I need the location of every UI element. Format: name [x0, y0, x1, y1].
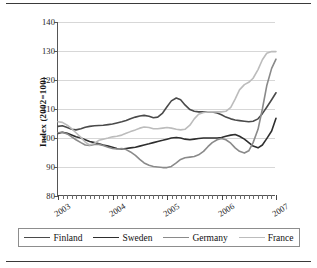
legend-label: Sweden [122, 233, 152, 243]
x-axis-minor-tick-mark [117, 195, 118, 199]
x-axis-minor-tick-mark [81, 195, 82, 199]
x-axis-minor-tick-mark [249, 195, 250, 199]
x-axis-tick-label: 2006 [216, 201, 236, 219]
x-axis-minor-tick-mark [140, 195, 141, 199]
x-axis-major-tick-mark [222, 195, 223, 200]
x-axis-minor-tick-mark [190, 195, 191, 199]
x-axis-minor-tick-mark [258, 195, 259, 199]
line-chart: Index (2002=100) 80901001101201301402003… [0, 6, 317, 218]
x-axis-minor-tick-mark [262, 195, 263, 199]
x-axis-minor-tick-mark [208, 195, 209, 199]
series-line-france [58, 52, 276, 145]
x-axis-minor-tick-mark [185, 195, 186, 199]
y-axis-tick-mark [54, 80, 58, 81]
legend-line-swatch-france [239, 237, 265, 238]
x-axis-minor-tick-mark [158, 195, 159, 199]
series-line-finland [58, 93, 276, 130]
legend-line-swatch-finland [24, 237, 50, 238]
x-axis-minor-tick-mark [72, 195, 73, 199]
x-axis-minor-tick-mark [162, 195, 163, 199]
x-axis-minor-tick-mark [63, 195, 64, 199]
x-axis-minor-tick-mark [181, 195, 182, 199]
x-axis-minor-tick-mark [85, 195, 86, 199]
x-axis-major-tick-mark [58, 195, 59, 200]
x-axis-minor-tick-mark [176, 195, 177, 199]
x-axis-minor-tick-mark [194, 195, 195, 199]
y-axis-tick-mark [54, 22, 58, 23]
legend-line-swatch-sweden [93, 237, 119, 238]
legend-label: Finland [53, 233, 82, 243]
x-axis-tick-label: 2003 [52, 201, 72, 219]
legend-label: France [268, 233, 294, 243]
legend-line-swatch-germany [163, 237, 189, 238]
legend-item-germany[interactable]: Germany [163, 233, 227, 243]
x-axis-minor-tick-mark [199, 195, 200, 199]
x-axis-tick-label: 2004 [107, 201, 127, 219]
series-line-germany [58, 59, 276, 167]
x-axis-minor-tick-mark [135, 195, 136, 199]
x-axis-minor-tick-mark [244, 195, 245, 199]
x-axis-minor-tick-mark [90, 195, 91, 199]
y-axis-tick-mark [54, 167, 58, 168]
x-axis-minor-tick-mark [235, 195, 236, 199]
x-axis-minor-tick-mark [149, 195, 150, 199]
x-axis-minor-tick-mark [122, 195, 123, 199]
x-axis-minor-tick-mark [99, 195, 100, 199]
x-axis-minor-tick-mark [76, 195, 77, 199]
figure: Index (2002=100) 80901001101201301402003… [0, 0, 317, 268]
x-axis-minor-tick-mark [203, 195, 204, 199]
x-axis-minor-tick-mark [226, 195, 227, 199]
y-axis-tick-mark [54, 138, 58, 139]
x-axis-minor-tick-mark [267, 195, 268, 199]
x-axis-major-tick-mark [113, 195, 114, 200]
x-axis-minor-tick-mark [217, 195, 218, 199]
legend-item-finland[interactable]: Finland [24, 233, 82, 243]
x-axis-minor-tick-mark [126, 195, 127, 199]
x-axis-minor-tick-mark [231, 195, 232, 199]
x-axis-minor-tick-mark [94, 195, 95, 199]
x-axis-minor-tick-mark [253, 195, 254, 199]
plot-area: 809010011012013014020032004200520062007 [57, 22, 275, 196]
bottom-divider-rule [6, 261, 311, 262]
y-axis-tick-mark [54, 51, 58, 52]
legend-item-sweden[interactable]: Sweden [93, 233, 152, 243]
x-axis-minor-tick-mark [131, 195, 132, 199]
x-axis-minor-tick-mark [240, 195, 241, 199]
chart-legend: FinlandSwedenGermanyFrance [18, 228, 300, 247]
legend-item-france[interactable]: France [239, 233, 294, 243]
x-axis-minor-tick-mark [108, 195, 109, 199]
x-axis-tick-label: 2007 [270, 201, 290, 219]
x-axis-minor-tick-mark [153, 195, 154, 199]
x-axis-major-tick-mark [276, 195, 277, 200]
x-axis-major-tick-mark [167, 195, 168, 200]
x-axis-minor-tick-mark [271, 195, 272, 199]
x-axis-tick-label: 2005 [161, 201, 181, 219]
y-axis-tick-mark [54, 109, 58, 110]
top-divider-rule [6, 3, 311, 4]
legend-label: Germany [192, 233, 227, 243]
x-axis-minor-tick-mark [212, 195, 213, 199]
x-axis-minor-tick-mark [144, 195, 145, 199]
x-axis-minor-tick-mark [172, 195, 173, 199]
x-axis-minor-tick-mark [103, 195, 104, 199]
series-lines [58, 22, 276, 196]
x-axis-minor-tick-mark [67, 195, 68, 199]
